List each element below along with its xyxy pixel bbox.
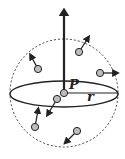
- particle: [34, 65, 41, 72]
- label-p: P: [68, 77, 80, 92]
- sphere-diagram: P r: [0, 0, 125, 159]
- particle: [75, 48, 82, 55]
- particle: [53, 95, 60, 102]
- particle: [73, 127, 80, 134]
- label-r: r: [87, 89, 95, 104]
- particle: [31, 123, 38, 130]
- particle: [96, 69, 103, 76]
- center-point-p: [60, 89, 67, 96]
